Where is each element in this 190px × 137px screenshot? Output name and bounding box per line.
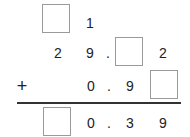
decimal-point-row3: . — [106, 79, 112, 93]
digit-row2-ones: 9 — [85, 46, 95, 60]
answer-box-row1-tens[interactable] — [42, 4, 70, 33]
digit-row2-tens: 2 — [53, 46, 63, 60]
digit-row2-hundredths: 2 — [158, 46, 168, 60]
decimal-point-row2: . — [105, 46, 111, 60]
digit-result-hundredths: 9 — [158, 116, 168, 130]
digit-row3-tenths: 9 — [125, 79, 135, 93]
digit-row1-ones: 1 — [85, 16, 95, 30]
digit-row3-ones: 0 — [86, 79, 96, 93]
sum-line — [17, 102, 181, 104]
digit-result-ones: 0 — [86, 116, 96, 130]
answer-box-result-tens[interactable] — [43, 107, 71, 136]
digit-result-tenths: 3 — [125, 116, 135, 130]
answer-box-row3-hundredths[interactable] — [150, 70, 178, 99]
answer-box-row2-tenths[interactable] — [115, 37, 143, 66]
decimal-point-result: . — [106, 116, 112, 130]
plus-sign: + — [15, 77, 29, 95]
